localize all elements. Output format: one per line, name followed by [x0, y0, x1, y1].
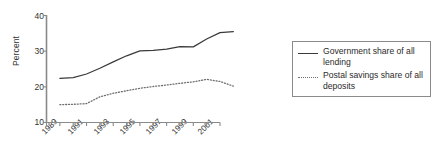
- legend-label: Government share of all lending: [323, 46, 426, 67]
- legend-item-postal-savings-share: Postal savings share of all deposits: [297, 70, 426, 91]
- legend-solid-line-icon: [298, 49, 318, 58]
- chart-figure: Percent 40 30 20 10 1989 1991 1993 1995 …: [0, 0, 438, 162]
- legend-item-government-share: Government share of all lending: [297, 46, 426, 67]
- legend-label: Postal savings share of all deposits: [323, 70, 426, 91]
- series-line-postal-savings-share: [60, 79, 234, 104]
- chart-legend: Government share of all lending Postal s…: [292, 41, 431, 97]
- legend-dotted-line-icon: [298, 73, 318, 82]
- axis-lines: [47, 15, 221, 123]
- series-line-government-share: [60, 32, 234, 79]
